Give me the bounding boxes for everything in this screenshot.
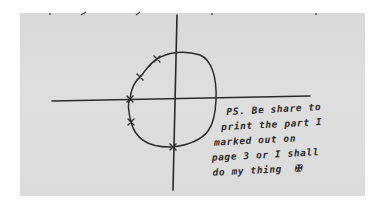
handwritten-note: PS. Be share to print the part I marked …: [226, 97, 360, 179]
note-line: do my thing: [212, 163, 282, 178]
signature-cross-icon: ✠: [294, 160, 303, 174]
x-mark-icon: [154, 56, 160, 62]
x-mark-icon: [137, 74, 143, 80]
x-marks: [127, 56, 176, 150]
vertical-axis: [173, 15, 177, 190]
horizontal-axis: [52, 96, 310, 101]
